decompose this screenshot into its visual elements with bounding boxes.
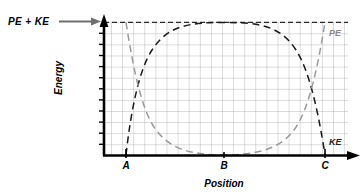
y-axis-label: Energy	[53, 61, 64, 95]
pe-curve-label: PE	[329, 28, 341, 38]
x-tick-label-c: C	[321, 160, 328, 171]
x-tick-label-b: B	[220, 160, 227, 171]
ke-curve-label: KE	[329, 137, 342, 147]
total-energy-label: PE + KE	[8, 16, 49, 27]
x-tick-label-a: A	[122, 160, 129, 171]
energy-position-diagram	[0, 0, 364, 195]
x-axis-arrowhead	[347, 151, 360, 160]
total-energy-arrow	[59, 17, 101, 25]
x-axis-label: Position	[204, 178, 243, 189]
y-axis-arrowhead	[100, 14, 109, 27]
